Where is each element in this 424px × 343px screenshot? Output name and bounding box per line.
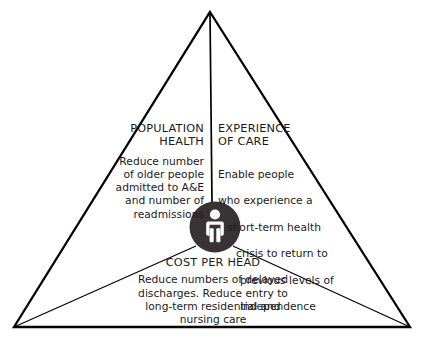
body-line: short-term health: [218, 221, 338, 234]
zone-population-health-body: Reduce number of older people admitted t…: [92, 155, 204, 221]
triangle-diagram: POPULATION HEALTH Reduce number of older…: [0, 0, 424, 343]
zone-population-health: POPULATION HEALTH Reduce number of older…: [92, 122, 204, 221]
zone-cost-per-head-title: COST PER HEAD: [97, 256, 329, 269]
zone-population-health-title: POPULATION HEALTH: [92, 122, 204, 149]
zone-cost-per-head-body: Reduce numbers of delayed discharges. Re…: [97, 273, 329, 326]
zone-experience-of-care-title: EXPERIENCE OF CARE: [218, 122, 338, 149]
body-line: Enable people: [218, 168, 338, 181]
zone-cost-per-head: COST PER HEAD Reduce numbers of delayed …: [97, 256, 329, 326]
body-line: who experience a: [218, 194, 338, 207]
vertical-divider-line: [210, 13, 212, 203]
